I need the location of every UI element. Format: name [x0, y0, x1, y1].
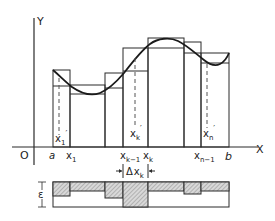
upper-rect-5 [148, 38, 184, 147]
y-axis-label: Y [36, 15, 44, 28]
upper-rect-6 [184, 42, 201, 147]
partition-labels: a x1 xk−1 xk xn−1 b [49, 150, 232, 164]
strip-diff-n [201, 182, 229, 191]
strip-diff-6 [184, 182, 201, 194]
label-xk: xk [143, 150, 154, 164]
label-xk-prime: xk′ [130, 125, 142, 142]
label-xn-minus-1: xn−1 [194, 150, 215, 164]
sample-point-lines [59, 58, 207, 135]
sample-point-labels: x1′ xk′ xn′ [55, 125, 215, 147]
strip-diff-k [123, 182, 148, 207]
label-x1: x1 [66, 150, 76, 164]
label-a: a [49, 150, 55, 161]
x-axis-label: X [256, 143, 264, 156]
riemann-sum-diagram: Y X O x1′ xk′ xn′ [0, 0, 275, 221]
label-delta-xk: Δxk [126, 166, 145, 180]
label-xk-minus-1: xk−1 [120, 150, 140, 164]
function-curve [53, 39, 229, 95]
strip-diff-3 [105, 182, 123, 198]
delta-xk-marker: Δxk [116, 164, 155, 180]
error-strip: ε [37, 182, 229, 207]
strip-diff-5 [148, 182, 184, 191]
origin-label: O [20, 149, 29, 162]
label-xn-prime: xn′ [203, 125, 215, 142]
label-epsilon: ε [38, 189, 43, 200]
label-b: b [225, 150, 232, 163]
strip-diff-1 [53, 182, 70, 196]
axes: Y X O [12, 15, 264, 165]
label-x1-prime: x1′ [55, 130, 67, 147]
lower-rectangle-tops [53, 48, 229, 94]
strip-diff-2 [70, 182, 105, 191]
